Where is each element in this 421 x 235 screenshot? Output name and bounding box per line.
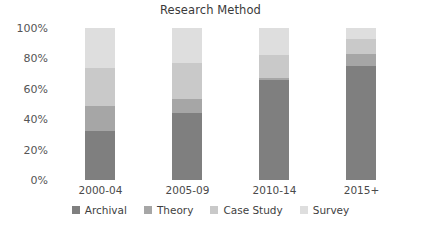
x-axis-tick-label: 2010-14 [253,184,297,196]
bar-segment-case-study[interactable] [172,63,202,99]
chart-title: Research Method [0,3,421,17]
bar-segment-case-study[interactable] [346,39,376,54]
legend-item-case-study[interactable]: Case Study [210,205,282,216]
bar-segment-theory[interactable] [85,106,115,132]
bar-segment-case-study[interactable] [259,55,289,78]
bar-stack [346,28,376,180]
y-axis-tick-label: 40% [24,113,48,126]
x-axis-tick-label: 2015+ [344,184,380,196]
bar-segment-archival[interactable] [346,66,376,180]
y-axis: 0%20%40%60%80%100% [0,28,52,180]
bar-segment-survey[interactable] [172,28,202,63]
legend-swatch-icon [210,206,218,214]
bar-segment-survey[interactable] [259,28,289,55]
research-method-chart: Research Method 0%20%40%60%80%100% 2000-… [0,0,421,235]
x-axis-tick-label: 2005-09 [166,184,210,196]
bar-segment-archival[interactable] [85,131,115,180]
bar-segment-theory[interactable] [172,99,202,113]
bar-stack [85,28,115,180]
legend-item-label: Archival [85,205,127,216]
legend-swatch-icon [72,206,80,214]
legend-swatch-icon [144,206,152,214]
y-axis-tick-label: 20% [24,143,48,156]
legend-item-survey[interactable]: Survey [300,205,350,216]
legend-item-theory[interactable]: Theory [144,205,193,216]
bar-segment-archival[interactable] [172,113,202,180]
x-axis: 2000-042005-092010-142015+ [57,181,405,201]
chart-legend: ArchivalTheoryCase StudySurvey [0,205,421,216]
bar-segment-theory[interactable] [259,78,289,80]
bar-segment-archival[interactable] [259,80,289,180]
bar-group[interactable] [85,28,115,180]
bar-group[interactable] [346,28,376,180]
y-axis-tick-label: 80% [24,52,48,65]
bar-group[interactable] [172,28,202,180]
bar-stack [172,28,202,180]
bar-segment-survey[interactable] [85,28,115,68]
bar-segment-theory[interactable] [346,54,376,66]
legend-item-label: Survey [313,205,350,216]
plot-area [57,28,405,180]
y-axis-tick-label: 100% [17,22,48,35]
bar-group[interactable] [259,28,289,180]
bar-segment-case-study[interactable] [85,68,115,106]
bar-segment-survey[interactable] [346,28,376,39]
x-axis-tick-label: 2000-04 [79,184,123,196]
bar-stack [259,28,289,180]
y-axis-tick-label: 0% [31,174,48,187]
legend-item-label: Theory [157,205,193,216]
legend-swatch-icon [300,206,308,214]
legend-item-label: Case Study [223,205,282,216]
legend-item-archival[interactable]: Archival [72,205,127,216]
y-axis-tick-label: 60% [24,82,48,95]
